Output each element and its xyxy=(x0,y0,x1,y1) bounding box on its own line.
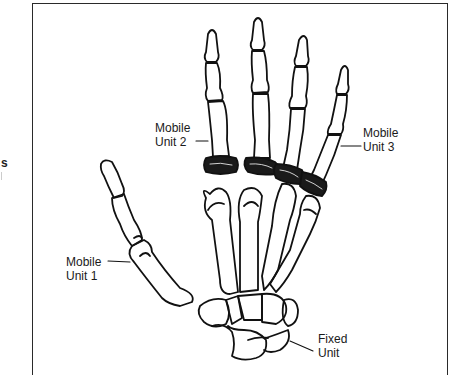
little-finger-phalanges xyxy=(307,66,349,188)
label-mobile-unit-3: Mobile Unit 3 xyxy=(363,126,398,154)
label-mobile-unit-1: Mobile Unit 1 xyxy=(66,255,101,283)
index-finger-phalanges xyxy=(205,30,229,157)
thumb-bones xyxy=(101,160,193,306)
carpal-bones xyxy=(199,294,298,360)
metacarpals xyxy=(204,184,320,294)
middle-finger-phalanges xyxy=(251,18,270,158)
ring-finger-phalanges xyxy=(283,36,309,170)
label-mobile-unit-2: Mobile Unit 2 xyxy=(155,121,190,149)
label-fixed-unit: Fixed Unit xyxy=(318,332,347,360)
